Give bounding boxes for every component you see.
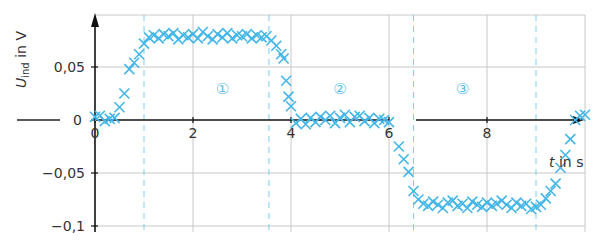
- x-tick-label: 2: [189, 125, 198, 141]
- x-tick-label: 6: [385, 125, 394, 141]
- region-label: ①: [216, 80, 229, 98]
- y-tick-label: −0,05: [42, 165, 85, 181]
- y-axis-label: Uind in V: [13, 31, 31, 88]
- region-label: ③: [456, 80, 469, 98]
- data-point-x-marker: [404, 167, 414, 177]
- data-point-x-marker: [394, 142, 404, 152]
- data-point-x-marker: [193, 33, 203, 43]
- data-point-x-marker: [124, 64, 134, 74]
- x-axis-label: t in s: [549, 154, 583, 170]
- induced-voltage-chart: 02468−0,1−0,050,05 ①②③ Uind in V t in s …: [0, 0, 601, 246]
- data-point-x-marker: [565, 134, 575, 144]
- axes: [91, 13, 584, 232]
- region-label: ②: [333, 80, 346, 98]
- data-point-x-marker: [279, 54, 289, 64]
- data-point-x-marker: [119, 89, 129, 99]
- y-tick-label: −0,1: [51, 218, 85, 234]
- x-tick-label: 8: [483, 125, 492, 141]
- region-labels: ①②③: [216, 80, 470, 98]
- data-point-x-marker: [462, 203, 472, 213]
- data-point-x-marker: [284, 92, 294, 102]
- region-boundaries: [144, 15, 536, 232]
- data-point-x-marker: [281, 76, 291, 86]
- data-point-x-marker: [168, 28, 178, 38]
- y-tick-label: 0,05: [54, 59, 85, 75]
- zero-reference-label: 0: [73, 112, 82, 128]
- data-point-x-marker: [399, 154, 409, 164]
- x-tick-label: 0: [91, 125, 100, 141]
- grid: [95, 15, 585, 232]
- tick-labels: 02468−0,1−0,050,05: [42, 59, 491, 234]
- data-point-x-marker: [115, 102, 125, 112]
